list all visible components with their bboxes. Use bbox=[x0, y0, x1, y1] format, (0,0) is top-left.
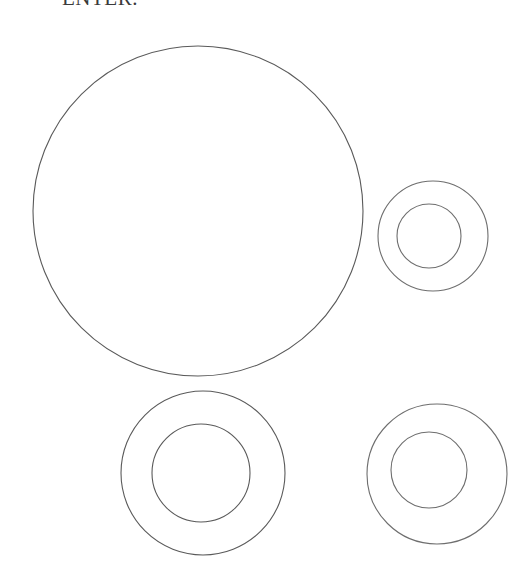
right-annulus-inner-circle bbox=[397, 204, 461, 268]
right-annulus-outer-circle bbox=[378, 181, 488, 291]
large-circle bbox=[33, 46, 363, 376]
bottom-right-annulus-inner-circle bbox=[391, 432, 467, 508]
circles-figure bbox=[0, 0, 516, 586]
bottom-right-annulus-outer-circle bbox=[367, 404, 507, 544]
figure-page: ENTER. bbox=[0, 0, 516, 586]
bottom-left-annulus-inner-circle bbox=[152, 424, 250, 522]
bottom-left-annulus-outer-circle bbox=[121, 391, 285, 555]
